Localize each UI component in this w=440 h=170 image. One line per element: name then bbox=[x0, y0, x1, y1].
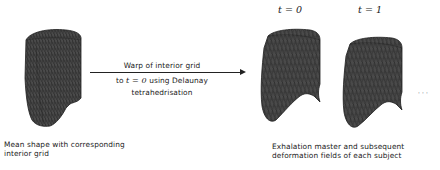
frame-label-t1: t = 1 bbox=[350, 4, 390, 15]
mesh-frame-t0 bbox=[258, 26, 324, 128]
arrow-shaft bbox=[90, 72, 240, 73]
warp-label-line2: tetrahedrisation bbox=[88, 88, 236, 97]
arrow-head-icon bbox=[240, 69, 246, 75]
warp-label-above: Warp of interior grid bbox=[88, 61, 236, 70]
warp-label-math: t = 0 bbox=[126, 76, 147, 85]
warp-label-prefix: to bbox=[116, 76, 126, 85]
right-caption-line1: Exhalation master and subsequent bbox=[272, 142, 440, 151]
mesh-frame-t1 bbox=[340, 34, 406, 134]
right-caption-line2: deformation fields of each subject bbox=[272, 151, 440, 160]
warp-label-below: to t = 0 using Delaunay bbox=[88, 76, 236, 85]
warp-label-suffix: using Delaunay bbox=[147, 76, 208, 85]
mean-shape-mesh bbox=[18, 28, 86, 128]
ellipsis: · · · bbox=[418, 88, 438, 97]
left-caption-line1: Mean shape with corresponding bbox=[4, 140, 204, 149]
right-caption: Exhalation master and subsequent deforma… bbox=[272, 142, 440, 160]
left-caption: Mean shape with corresponding interior g… bbox=[4, 140, 204, 158]
frame-label-t0: t = 0 bbox=[270, 4, 310, 15]
left-caption-line2: interior grid bbox=[4, 149, 204, 158]
